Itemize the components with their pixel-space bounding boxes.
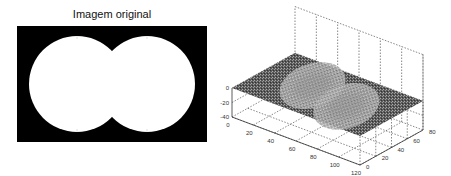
x-tick-label: 80 [310,154,317,160]
white-disc-right [99,36,195,132]
y-tick-label: 60 [413,138,420,144]
box-top-edge [295,7,423,55]
x-tick-label: 120 [351,170,362,176]
z-tick-label: -20 [220,100,229,106]
x-tick-label: 40 [267,138,274,144]
y-tick-label: 20 [382,155,389,161]
x-tick-label: 60 [289,146,296,152]
z-tick-label: 0 [226,85,230,91]
z-tick-label: -40 [220,114,229,120]
original-image-plot [0,0,220,176]
y-tick-label: 80 [429,129,436,135]
x-tick-label: 20 [246,130,253,136]
x-tick-label: 100 [330,162,341,168]
surface-plot: 0204060801001200204060800-20-40 [220,0,451,176]
y-tick-label: 0 [366,164,370,170]
surface-mesh [232,53,423,138]
x-tick-label: 0 [226,122,230,128]
original-image-panel: Imagem original [0,0,220,176]
y-tick-label: 40 [398,147,405,153]
